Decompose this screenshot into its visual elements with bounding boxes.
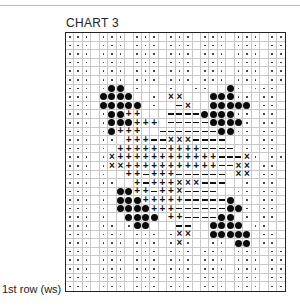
blank-cell bbox=[260, 282, 268, 291]
dot-icon bbox=[66, 59, 74, 68]
blank-cell bbox=[226, 274, 234, 283]
blank-cell bbox=[260, 42, 268, 51]
dot-icon bbox=[235, 93, 243, 102]
dash-icon bbox=[193, 196, 201, 205]
dot-icon bbox=[176, 42, 184, 51]
blank-cell bbox=[159, 119, 167, 128]
blank-cell bbox=[218, 85, 226, 94]
dot-icon bbox=[167, 265, 175, 274]
dot-icon bbox=[100, 145, 108, 154]
dot-icon bbox=[167, 282, 175, 291]
blank-cell bbox=[91, 33, 99, 42]
dot-icon bbox=[83, 196, 91, 205]
dot-icon bbox=[269, 136, 277, 145]
blank-cell bbox=[235, 213, 243, 222]
cross-icon bbox=[176, 239, 184, 248]
filled-circle-icon bbox=[235, 222, 243, 231]
blank-cell bbox=[226, 59, 234, 68]
plus-icon bbox=[201, 162, 209, 171]
dot-icon bbox=[74, 179, 82, 188]
dot-icon bbox=[66, 128, 74, 137]
dot-icon bbox=[260, 119, 268, 128]
blank-cell bbox=[125, 231, 133, 240]
blank-cell bbox=[201, 239, 209, 248]
dot-icon bbox=[74, 256, 82, 265]
dot-icon bbox=[176, 67, 184, 76]
blank-cell bbox=[167, 222, 175, 231]
plus-icon bbox=[142, 162, 150, 171]
dot-icon bbox=[83, 33, 91, 42]
dot-icon bbox=[66, 265, 74, 274]
blank-cell bbox=[193, 265, 201, 274]
filled-circle-icon bbox=[108, 102, 116, 111]
dash-icon bbox=[201, 119, 209, 128]
dot-icon bbox=[83, 179, 91, 188]
dot-icon bbox=[201, 282, 209, 291]
blank-cell bbox=[150, 85, 158, 94]
dot-icon bbox=[142, 248, 150, 257]
dot-icon bbox=[108, 33, 116, 42]
dot-icon bbox=[100, 256, 108, 265]
dot-icon bbox=[100, 231, 108, 240]
dot-icon bbox=[269, 110, 277, 119]
plus-icon bbox=[176, 196, 184, 205]
dash-icon bbox=[218, 205, 226, 214]
dot-icon bbox=[134, 67, 142, 76]
dash-icon bbox=[159, 128, 167, 137]
dot-icon bbox=[243, 256, 251, 265]
dot-icon bbox=[209, 76, 217, 85]
blank-cell bbox=[91, 213, 99, 222]
plus-icon bbox=[150, 179, 158, 188]
dot-icon bbox=[150, 102, 158, 111]
dot-icon bbox=[66, 222, 74, 231]
dot-icon bbox=[108, 42, 116, 51]
filled-circle-icon bbox=[209, 102, 217, 111]
dot-icon bbox=[108, 239, 116, 248]
dot-icon bbox=[66, 231, 74, 240]
dot-icon bbox=[269, 153, 277, 162]
blank-cell bbox=[226, 171, 234, 180]
dash-icon bbox=[167, 119, 175, 128]
blank-cell bbox=[226, 179, 234, 188]
dot-icon bbox=[117, 265, 125, 274]
dot-icon bbox=[218, 282, 226, 291]
dot-icon bbox=[269, 85, 277, 94]
dot-icon bbox=[277, 59, 285, 68]
blank-cell bbox=[159, 265, 167, 274]
dot-icon bbox=[100, 213, 108, 222]
dot-icon bbox=[167, 76, 175, 85]
dot-icon bbox=[277, 265, 285, 274]
cross-icon bbox=[108, 162, 116, 171]
blank-cell bbox=[91, 274, 99, 283]
dot-icon bbox=[201, 67, 209, 76]
blank-cell bbox=[150, 128, 158, 137]
blank-cell bbox=[125, 42, 133, 51]
dot-icon bbox=[150, 42, 158, 51]
dash-icon bbox=[176, 110, 184, 119]
filled-circle-icon bbox=[218, 213, 226, 222]
blank-cell bbox=[277, 93, 285, 102]
blank-cell bbox=[91, 179, 99, 188]
blank-cell bbox=[91, 231, 99, 240]
dot-icon bbox=[218, 59, 226, 68]
blank-cell bbox=[91, 76, 99, 85]
dash-icon bbox=[142, 171, 150, 180]
dot-icon bbox=[142, 239, 150, 248]
dot-icon bbox=[269, 42, 277, 51]
dot-icon bbox=[235, 76, 243, 85]
filled-circle-icon bbox=[125, 196, 133, 205]
dot-icon bbox=[100, 59, 108, 68]
blank-cell bbox=[252, 239, 260, 248]
filled-circle-icon bbox=[134, 205, 142, 214]
dot-icon bbox=[176, 50, 184, 59]
filled-circle-icon bbox=[108, 93, 116, 102]
dot-icon bbox=[66, 50, 74, 59]
blank-cell bbox=[167, 102, 175, 111]
dot-icon bbox=[176, 282, 184, 291]
dash-icon bbox=[218, 145, 226, 154]
dot-icon bbox=[117, 231, 125, 240]
dot-icon bbox=[150, 265, 158, 274]
blank-cell bbox=[159, 42, 167, 51]
dot-icon bbox=[83, 205, 91, 214]
filled-circle-icon bbox=[226, 110, 234, 119]
